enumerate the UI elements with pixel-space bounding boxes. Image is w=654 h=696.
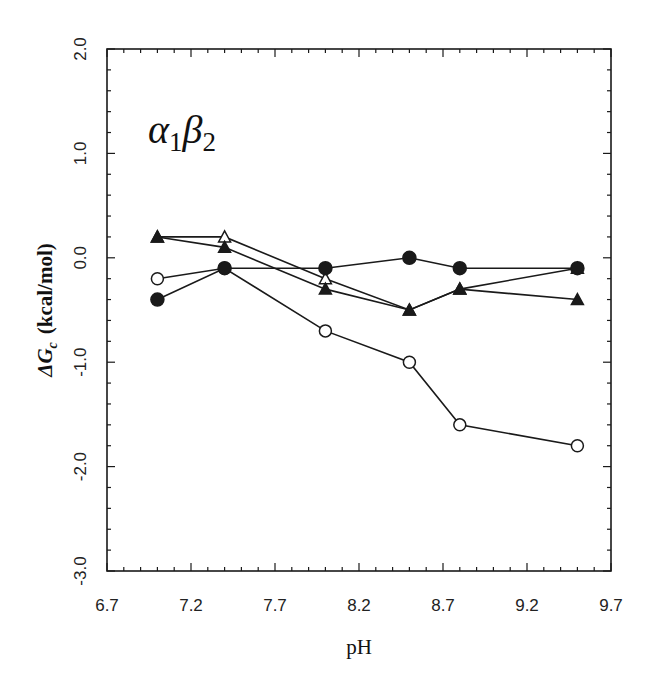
annotation-beta: β (182, 107, 203, 152)
open-circle-marker (151, 273, 163, 285)
filled-circle-marker (218, 262, 231, 275)
chart-annotation: α1β2 (148, 107, 216, 157)
y-tick-labels: 2.01.00.0-1.0-2.0-3.0 (71, 37, 90, 585)
open-circle-marker (454, 419, 466, 431)
open-circle-marker (403, 356, 415, 368)
x-tick-label: 8.7 (431, 596, 455, 615)
x-tick-label: 7.2 (179, 596, 203, 615)
x-tick-labels: 6.77.27.78.28.79.29.7 (95, 596, 623, 615)
filled-triangle-marker (319, 283, 331, 294)
y-tick-label: 0.0 (71, 246, 90, 270)
y-tick-label: -2.0 (71, 452, 90, 481)
y-axis-title: ΔGc(kcal/mol) (33, 243, 60, 378)
filled-circle-marker (403, 251, 416, 264)
y-axis-title-delta: ΔG (33, 348, 57, 377)
open-circle-marker (319, 325, 331, 337)
filled-circle-marker (151, 293, 164, 306)
y-tick-label: -1.0 (71, 348, 90, 377)
filled-circle-marker (319, 262, 332, 275)
y-axis-title-sub: c (45, 341, 60, 348)
y-tick-label: 1.0 (71, 142, 90, 166)
x-tick-label: 9.7 (599, 596, 623, 615)
series-markers (151, 231, 584, 452)
y-axis-title-units: (kcal/mol) (33, 243, 57, 334)
x-tick-label: 7.7 (263, 596, 287, 615)
open-circle-marker (571, 440, 583, 452)
chart: 6.77.27.78.28.79.29.7 2.01.00.0-1.0-2.0-… (0, 0, 654, 696)
x-tick-label: 6.7 (95, 596, 119, 615)
annotation-sub-1: 1 (169, 127, 183, 157)
x-tick-label: 8.2 (347, 596, 371, 615)
y-tick-label: -3.0 (71, 556, 90, 585)
x-axis-title: pH (346, 635, 372, 659)
annotation-alpha: α (148, 107, 170, 152)
y-tick-label: 2.0 (71, 37, 90, 61)
filled-circle-marker (571, 262, 584, 275)
filled-circle-marker (453, 262, 466, 275)
x-tick-label: 9.2 (515, 596, 539, 615)
annotation-sub-2: 2 (202, 127, 216, 157)
